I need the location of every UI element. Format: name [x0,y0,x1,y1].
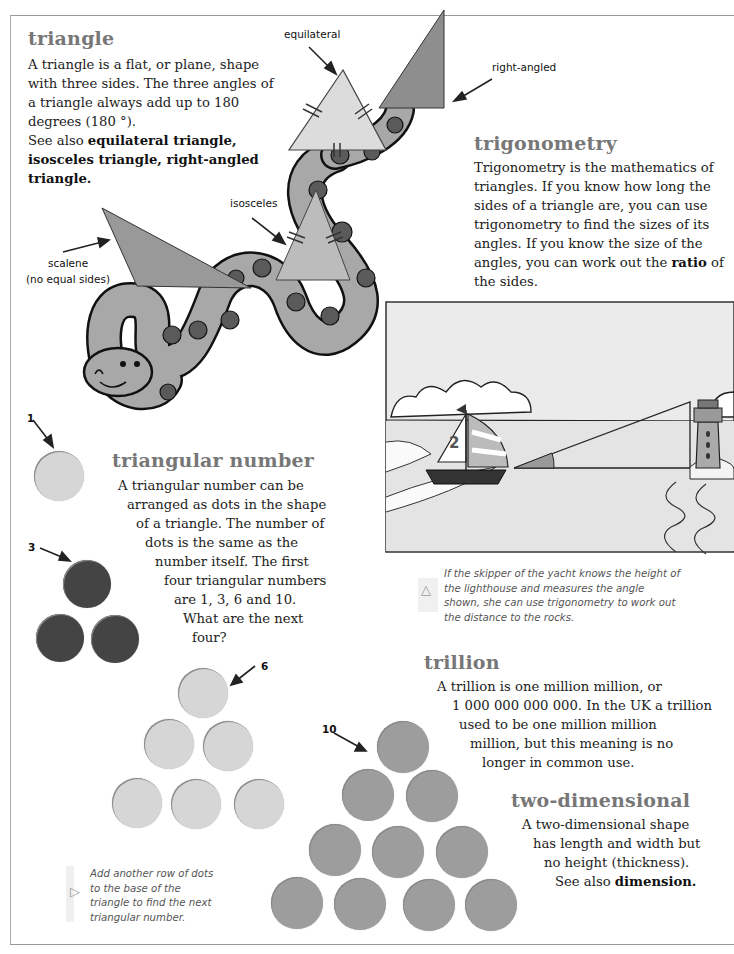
caption-line: the lighthouse and measures the angle [444,582,680,597]
label-scalene-note: (no equal sides) [26,273,110,285]
caption-lighthouse: If the skipper of the yacht knows the he… [444,567,680,625]
label-equilateral: equilateral [284,28,340,40]
text-line: four? [118,628,318,647]
dot [403,879,455,931]
entry-body-two-dimensional: A two-dimensional shape has length and w… [522,815,734,891]
dot [91,615,139,663]
text-line: of a triangle. The number of [118,514,318,533]
cross-reference-link[interactable]: dimension. [615,874,697,889]
entry-body-trillion: A trillion is one million million, or 1 … [437,677,734,772]
dot [178,668,228,718]
caption-line: Add another row of dots [90,867,213,882]
caption-line: If the skipper of the yacht knows the he… [444,567,680,582]
entry-body-triangular-number: A triangular number can be arranged as d… [118,476,318,647]
dot [144,719,194,769]
dot [465,879,517,931]
caption-line: triangular number. [90,911,213,926]
caption-line: triangle to find the next [90,896,213,911]
dot [234,779,284,829]
dot [334,878,386,930]
text-line: are 1, 3, 6 and 10. [118,590,318,609]
triangle-up-icon: △ [421,582,431,597]
dot [36,614,84,662]
dot [309,824,361,876]
text-line: has length and width but [522,834,734,853]
entry-heading-triangular-number: triangular number [112,449,314,471]
dot [171,779,221,829]
dot [63,560,111,608]
dot [203,721,253,771]
text-line: A trillion is one million million, or [437,677,734,696]
right-angled-triangle-icon [379,10,444,108]
text-line: number itself. The first [118,552,318,571]
text-line: dots is the same as the [118,533,318,552]
dot [112,778,162,828]
text-line: arranged as dots in the shape [118,495,318,514]
lighthouse-yacht-illustration [386,302,734,554]
text-line: A two-dimensional shape [522,815,734,834]
text-line: four triangular numbers [118,571,318,590]
text-line: million, but this meaning is no [437,734,734,753]
text-line: used to be one million million [437,715,734,734]
triangle-right-icon: ▷ [70,884,80,899]
dot [406,770,458,822]
text-line: What are the next [118,609,318,628]
dot [436,826,488,878]
label-right-angled: right-angled [492,61,556,73]
dot [372,826,424,878]
text-line: no height (thickness). [522,853,734,872]
entry-heading-trillion: trillion [424,651,500,673]
dot-label-1: 1 [27,412,34,424]
text-line: longer in common use. [437,753,734,772]
caption-dots: Add another row of dots to the base of t… [90,867,213,925]
caption-line: shown, she can use trigonometry to work … [444,596,680,611]
dot-label-6: 6 [261,660,268,672]
label-isosceles: isosceles [230,197,277,209]
dot-label-3: 3 [28,541,35,553]
dot [377,721,429,773]
dot [34,451,84,501]
text-line: See also dimension. [522,872,734,891]
dot-label-10: 10 [322,723,337,735]
caption-line: to the base of the [90,882,213,897]
label-scalene: scalene [48,257,88,269]
yacht-sail-number: 2 [449,434,459,452]
dot [342,769,394,821]
text-line: A triangular number can be [118,476,318,495]
text-line: 1 000 000 000 000. In the UK a trillion [437,696,734,715]
caption-line: the distance to the rocks. [444,611,680,626]
scalene-triangle-icon [102,208,251,288]
dot [271,877,323,929]
entry-heading-two-dimensional: two-dimensional [511,789,690,811]
